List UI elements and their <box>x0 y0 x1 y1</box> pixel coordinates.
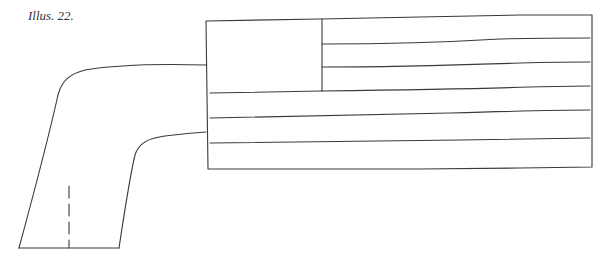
sleeve-outer-edge <box>19 65 206 248</box>
flag-stripe-5 <box>210 138 590 143</box>
flag-stripe-1 <box>322 38 590 44</box>
flag-canton-bottom <box>210 91 322 93</box>
sleeve <box>19 65 206 248</box>
sleeve-inner-edge <box>119 132 206 248</box>
flag-stripe-2 <box>322 62 590 67</box>
flag <box>206 15 592 169</box>
illustration <box>0 0 610 263</box>
flag-stripe-3 <box>322 86 590 91</box>
flag-stripe-4 <box>210 110 590 118</box>
